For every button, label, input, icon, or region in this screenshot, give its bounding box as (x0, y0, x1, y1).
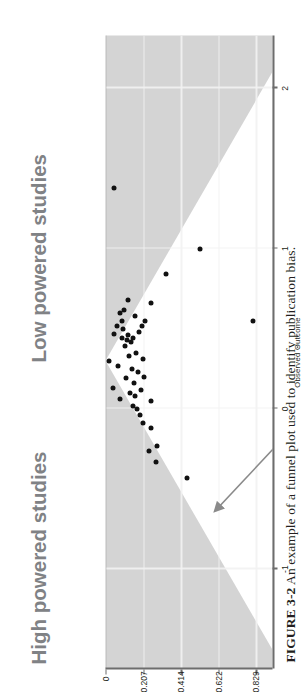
data-point (184, 475, 189, 480)
y-tick (105, 669, 106, 674)
y-tick-label: 0.207 (138, 676, 148, 692)
data-point (111, 331, 116, 336)
data-point (110, 385, 115, 390)
heading-high-powered-studies: High powered studies (26, 451, 50, 664)
y-tick-label: 0.829 (250, 676, 260, 692)
data-point (250, 318, 255, 323)
data-point (114, 323, 119, 328)
x-tick (272, 247, 277, 248)
figure-caption: FIGURE 3-2 An example of a funnel plot u… (282, 12, 298, 662)
figure-caption-number: FIGURE 3-2 (282, 587, 297, 662)
data-point (133, 350, 138, 355)
gridline-vertical (105, 86, 272, 88)
data-point (139, 323, 144, 328)
data-point (126, 353, 131, 358)
data-point (138, 387, 143, 392)
y-axis-line (105, 667, 272, 669)
data-point (140, 420, 145, 425)
x-tick (272, 567, 277, 568)
data-point (154, 443, 159, 448)
data-point (121, 307, 126, 312)
data-point (122, 343, 127, 348)
data-point (130, 335, 135, 340)
data-point (132, 313, 137, 318)
data-point (148, 398, 153, 403)
data-point (106, 358, 111, 363)
data-point (134, 406, 139, 411)
gridline-horizontal (143, 35, 145, 668)
gridline-horizontal (218, 35, 220, 668)
heading-low-powered-studies: Low powered studies (26, 154, 50, 362)
figure-caption-text: An example of a funnel plot used to iden… (282, 246, 297, 584)
data-point (146, 448, 151, 453)
arrow-up-left-icon (205, 398, 272, 518)
data-point (125, 297, 130, 302)
funnel-wedge (105, 35, 272, 668)
data-point (142, 318, 147, 323)
funnel-plot: Pooled effect (105, 35, 272, 668)
data-point (132, 393, 137, 398)
data-point (119, 335, 124, 340)
data-point (163, 271, 168, 276)
data-point (123, 375, 128, 380)
data-point (119, 318, 124, 323)
data-point (197, 246, 202, 251)
rotated-page-stage: High powered studies Low powered studies… (0, 0, 303, 692)
y-tick-label: 0.622 (213, 676, 223, 692)
plot-area: Pooled effect (105, 35, 272, 668)
data-point (136, 329, 141, 334)
data-point (153, 459, 158, 464)
data-point (111, 185, 116, 190)
gridline-horizontal (180, 35, 182, 668)
data-point (148, 425, 153, 430)
gridline-vertical (105, 567, 272, 569)
headings-band: High powered studies Low powered studies (0, 0, 92, 692)
y-tick-label: 0 (100, 676, 110, 692)
data-point (141, 374, 146, 379)
data-point (129, 366, 134, 371)
x-axis-line (272, 35, 274, 668)
data-point (135, 369, 140, 374)
gridline-horizontal (255, 35, 257, 668)
y-tick-label: 0.414 (175, 676, 185, 692)
data-point (137, 412, 142, 417)
data-point (140, 356, 145, 361)
x-tick (272, 87, 277, 88)
gridline-vertical (105, 247, 272, 249)
pooled-effect-line (105, 35, 106, 668)
x-tick (272, 407, 277, 408)
data-point (148, 300, 153, 305)
data-point (115, 363, 120, 368)
data-point (120, 326, 125, 331)
data-point (131, 380, 136, 385)
data-point (127, 390, 132, 395)
data-point (117, 396, 122, 401)
data-point (125, 332, 130, 337)
